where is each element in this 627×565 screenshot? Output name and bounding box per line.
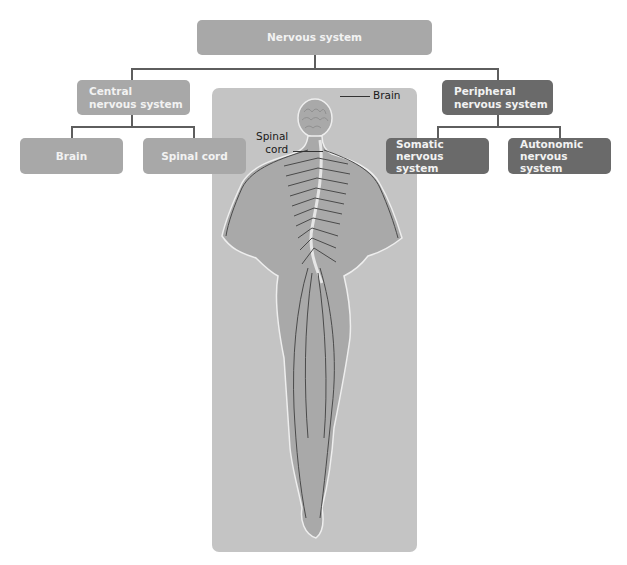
node-spinal-cord: Spinal cord — [143, 138, 246, 174]
connector-autonomic-stem — [559, 126, 561, 138]
illustration-label-spinal-cord: Spinal cord — [256, 130, 288, 155]
connector-pns-stem — [497, 68, 499, 80]
connector-somatic-stem — [437, 126, 439, 138]
connector-root-stem — [314, 55, 316, 69]
spinal-cord-pointer-line — [293, 151, 323, 152]
node-brain: Brain — [20, 138, 123, 174]
connector-cns-horizontal — [71, 126, 195, 128]
connector-brain-stem — [71, 126, 73, 138]
node-autonomic-nervous-system: Autonomic nervous system — [508, 138, 611, 174]
node-peripheral-nervous-system: Peripheral nervous system — [442, 80, 553, 115]
node-somatic-nervous-system: Somatic nervous system — [386, 138, 489, 174]
illustration-label-brain: Brain — [373, 89, 401, 102]
connector-top-horizontal — [131, 68, 499, 70]
root-node-nervous-system: Nervous system — [197, 20, 432, 55]
connector-pns-horizontal — [437, 126, 561, 128]
connector-cns-stem — [131, 68, 133, 80]
node-central-nervous-system: Central nervous system — [77, 80, 190, 115]
connector-spinal-stem — [193, 126, 195, 138]
brain-pointer-line — [340, 96, 370, 97]
